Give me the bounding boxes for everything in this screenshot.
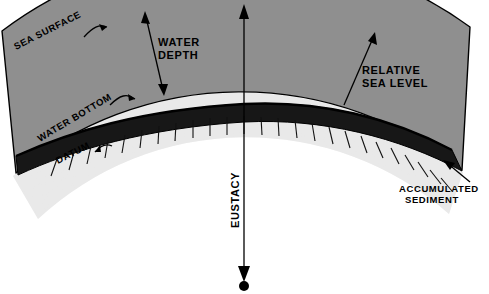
eustacy-label: EUSTACY (229, 172, 241, 228)
water-depth-label-line1: WATER (158, 36, 200, 48)
relative-sea-level-label-line2: SEA LEVEL (362, 77, 428, 89)
cross-section-svg: SEA SURFACE WATER BOTTOM DATUM WATER DEP… (0, 0, 489, 294)
accumulated-sediment-label-line1: ACCUMULATED (399, 183, 479, 194)
accumulated-sediment-label-line2: SEDIMENT (405, 194, 459, 205)
diagram-canvas: SEA SURFACE WATER BOTTOM DATUM WATER DEP… (0, 0, 489, 294)
earth-centre-dot (239, 281, 249, 291)
water-depth-label-line2: DEPTH (158, 49, 198, 61)
relative-sea-level-label-line1: RELATIVE (362, 64, 420, 76)
